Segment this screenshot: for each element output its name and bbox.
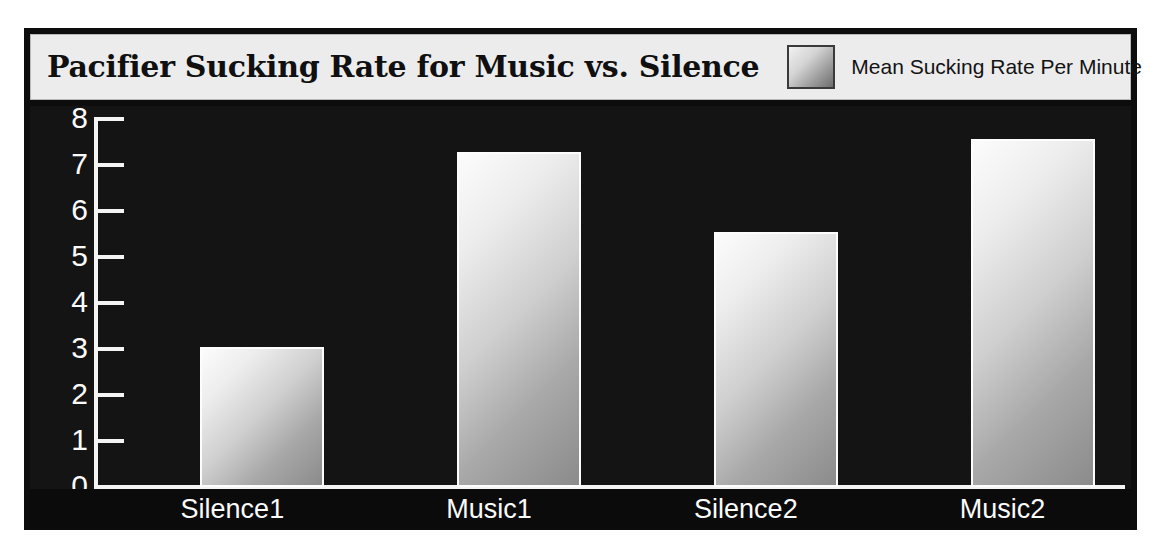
chart-legend: Mean Sucking Rate Per Minute bbox=[787, 45, 1142, 89]
x-axis-category-label: Silence1 bbox=[90, 491, 374, 527]
y-axis-tick-label: 4 bbox=[44, 287, 88, 317]
bar bbox=[971, 139, 1095, 487]
y-axis-tick-label: 6 bbox=[44, 195, 88, 225]
page-title: Pacifier Sucking Rate for Music vs. Sile… bbox=[47, 52, 759, 82]
x-axis-category-labels: Silence1Music1Silence2Music2 bbox=[30, 489, 1131, 529]
y-axis-tick-label: 5 bbox=[44, 241, 88, 271]
y-axis-tick-label: 8 bbox=[44, 103, 88, 133]
legend-label: Mean Sucking Rate Per Minute bbox=[851, 55, 1142, 79]
legend-swatch-icon bbox=[787, 45, 835, 89]
chart-figure: Pacifier Sucking Rate for Music vs. Sile… bbox=[0, 0, 1173, 556]
bar bbox=[457, 152, 581, 487]
bar bbox=[200, 347, 324, 487]
x-axis-category-label: Music2 bbox=[861, 491, 1145, 527]
bars-layer bbox=[98, 119, 1125, 487]
y-axis-tick-label: 3 bbox=[44, 333, 88, 363]
y-axis-tick-label: 1 bbox=[44, 425, 88, 455]
y-axis-tick-label: 7 bbox=[44, 149, 88, 179]
x-axis-category-label: Music1 bbox=[347, 491, 631, 527]
y-axis-tick-label: 2 bbox=[44, 379, 88, 409]
chart-frame: Pacifier Sucking Rate for Music vs. Sile… bbox=[24, 28, 1137, 530]
bar bbox=[714, 232, 838, 487]
plot-area: 876543210 bbox=[30, 106, 1131, 524]
x-axis-category-label: Silence2 bbox=[604, 491, 888, 527]
chart-header: Pacifier Sucking Rate for Music vs. Sile… bbox=[30, 34, 1131, 100]
